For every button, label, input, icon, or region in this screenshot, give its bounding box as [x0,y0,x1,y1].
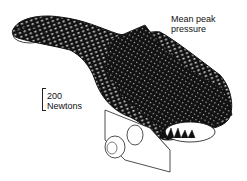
scale-bar-value: 200 [47,91,82,101]
scale-bar-unit: Newtons [47,101,82,111]
annotation-line-2: pressure [171,24,216,34]
scale-bar-bracket [42,88,46,111]
mean-peak-pressure-label: Mean peak pressure [171,14,216,34]
scale-bar-label: 200 Newtons [47,91,82,111]
annotation-line-1: Mean peak [171,14,216,24]
